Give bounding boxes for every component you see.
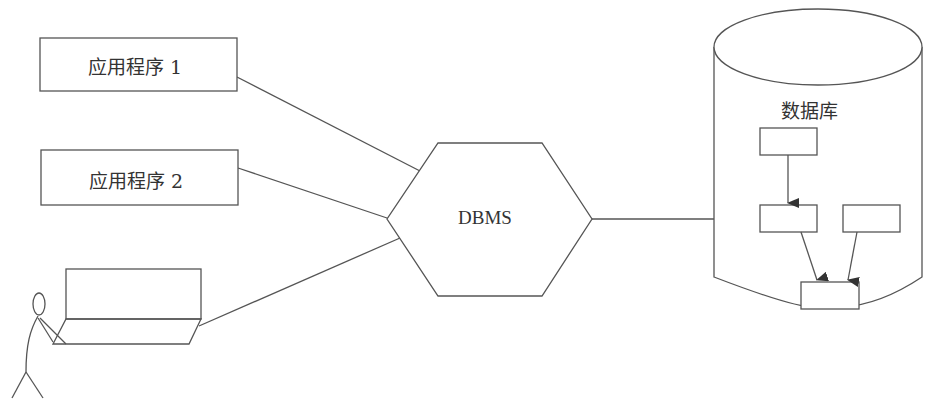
db-table-box-4 (801, 282, 859, 309)
terminal-icon (53, 269, 201, 344)
app2-label: 应用程序 2 (89, 166, 183, 193)
database-label: 数据库 (781, 96, 838, 123)
connector-app2-dbms (238, 168, 387, 218)
connector-app1-dbms (237, 77, 420, 171)
db-table-box-3 (843, 205, 900, 232)
db-table-box-1 (760, 128, 817, 155)
app1-label: 应用程序 1 (88, 52, 182, 79)
db-table-box-2 (760, 205, 817, 232)
connector-terminal-dbms (199, 238, 400, 326)
user-icon (12, 293, 66, 398)
database-cylinder (714, 9, 922, 307)
dbms-label: DBMS (458, 207, 512, 229)
